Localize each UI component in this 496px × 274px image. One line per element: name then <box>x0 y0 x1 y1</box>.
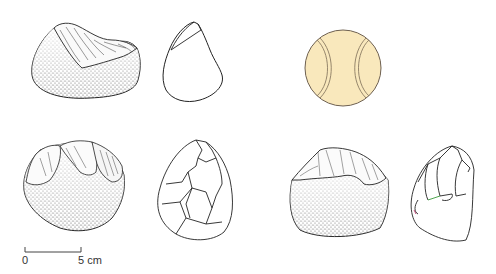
tool-1-profile-view <box>163 22 222 102</box>
tool-1-face-view <box>32 23 140 98</box>
scale-bar-end-label: 5 cm <box>78 255 102 266</box>
tool-3-scar-view <box>411 146 474 241</box>
tool-2-face-view <box>20 140 130 235</box>
scale-bar <box>25 247 81 252</box>
figure-canvas <box>0 0 496 274</box>
scale-bar-start-label: 0 <box>22 255 28 266</box>
tool-2-scar-view <box>158 140 233 240</box>
tool-3-face-view <box>285 148 395 245</box>
tennis-ball-reference <box>305 30 381 106</box>
